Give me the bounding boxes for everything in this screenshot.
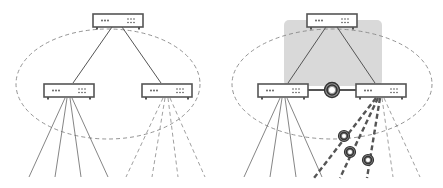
uplink xyxy=(73,27,112,83)
solid-links xyxy=(29,98,108,177)
right-switch-icon xyxy=(142,84,192,100)
dashed-links xyxy=(126,98,205,177)
right-panel xyxy=(232,14,432,178)
left-switch-icon xyxy=(44,84,94,100)
ring-node-icon xyxy=(363,155,374,166)
left-switch-icon xyxy=(258,84,308,100)
network-diagram xyxy=(0,0,443,188)
dashed-links xyxy=(382,98,420,177)
right-switch-icon xyxy=(356,84,406,100)
ring-node-icon xyxy=(339,131,350,142)
top-switch-icon xyxy=(93,14,143,30)
highlight-box xyxy=(284,20,382,86)
ring-node-icon xyxy=(345,147,356,158)
ring-node-icon xyxy=(325,83,340,98)
uplink xyxy=(122,27,161,83)
left-panel xyxy=(16,14,205,177)
top-switch-icon xyxy=(307,14,357,30)
solid-links xyxy=(244,98,322,177)
